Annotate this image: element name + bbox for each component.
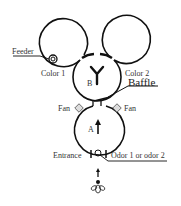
baffle-lines: [94, 86, 158, 101]
color1-label: Color 1: [41, 70, 65, 78]
bee-icon: [90, 180, 105, 193]
maze-diagram: [0, 0, 181, 206]
chamber-a-label: A: [88, 126, 94, 134]
fan-left-label: Fan: [58, 105, 70, 113]
y-baffle-icon: [91, 67, 103, 84]
chamber-color1: [39, 19, 87, 67]
chamber-a: [75, 106, 125, 155]
feeder-label: Feeder: [12, 48, 34, 56]
feeder-icon: [13, 55, 57, 63]
odor-label: Odor 1 or odor 2: [111, 152, 165, 160]
arrow-up-icon: [95, 119, 101, 134]
baffle-label: Baffle: [128, 77, 155, 88]
entry-arrow-icon: [96, 168, 100, 177]
chamber-b-label: B: [87, 80, 92, 88]
fan-right-label: Fan: [124, 105, 136, 113]
fan-right-icon: [113, 104, 121, 112]
entrance-label: Entrance: [53, 152, 81, 160]
